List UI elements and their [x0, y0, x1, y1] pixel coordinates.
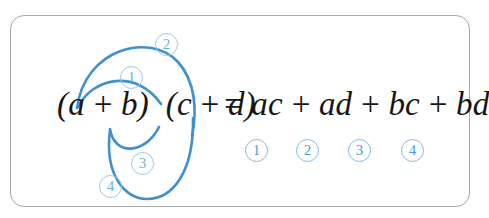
term-label-3: 3	[348, 139, 371, 162]
equation-right-side: = ac + ad + bc + bd	[222, 88, 489, 121]
arc-label-1: 1	[120, 66, 143, 89]
term-label-4: 4	[401, 139, 424, 162]
arc-label-2: 2	[155, 33, 178, 56]
arc-b-to-c	[110, 127, 159, 149]
arc-label-3: 3	[131, 152, 154, 175]
term-label-2: 2	[296, 139, 319, 162]
arc-label-4: 4	[99, 175, 122, 198]
term-label-1: 1	[245, 139, 268, 162]
